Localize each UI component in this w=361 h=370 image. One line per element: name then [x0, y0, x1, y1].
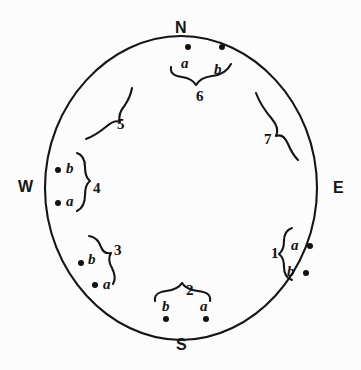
compass-label-south: S [176, 337, 187, 353]
point-dot-1b [303, 270, 309, 276]
group-number-5: 5 [117, 117, 125, 132]
point-label-2a: a [200, 299, 208, 314]
point-label-6b: b [214, 62, 222, 77]
point-label-1b: b [287, 264, 295, 279]
point-dot-6b [219, 44, 225, 50]
point-label-3a: a [103, 277, 111, 292]
point-label-2b: b [162, 299, 170, 314]
point-label-4a: a [66, 194, 74, 209]
point-dot-3a [92, 282, 98, 288]
compass-circle-figure: N E S W 1 2 3 4 5 6 7 a b b a b a b a a … [0, 0, 361, 370]
compass-label-west: W [18, 179, 34, 195]
point-label-6a: a [181, 56, 189, 71]
point-dot-1a [307, 243, 313, 249]
point-dot-2a [203, 316, 209, 322]
point-dot-4b [55, 167, 61, 173]
group-number-7: 7 [264, 132, 272, 147]
point-label-1a: a [291, 238, 299, 253]
group-number-2: 2 [186, 283, 194, 298]
point-label-3b: b [88, 252, 96, 267]
point-dot-4a [55, 200, 61, 206]
group-number-6: 6 [196, 89, 204, 104]
point-dot-3b [78, 260, 84, 266]
compass-label-north: N [175, 20, 187, 36]
brace-group-5 [86, 88, 132, 139]
point-label-4b: b [66, 161, 74, 176]
group-number-1: 1 [271, 246, 279, 261]
brace-group-4 [77, 153, 90, 211]
compass-label-east: E [333, 180, 344, 196]
group-number-3: 3 [114, 243, 122, 258]
group-number-4: 4 [93, 181, 101, 196]
brace-group-7 [256, 93, 298, 160]
point-dot-2b [163, 316, 169, 322]
point-dot-6a [185, 44, 191, 50]
